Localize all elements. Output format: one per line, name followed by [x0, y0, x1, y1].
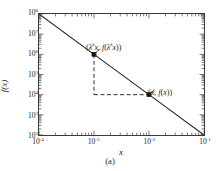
plot-canvas: [39, 14, 204, 135]
data-line: [39, 14, 204, 135]
y-tick-label: 107: [28, 30, 38, 38]
x-tick-label: 10-3: [88, 138, 100, 146]
x-axis-title: x: [119, 147, 123, 157]
annotation-base-point: (x, f(x)): [148, 89, 172, 97]
y-tick-label: 105: [28, 71, 38, 79]
y-tick-label: 104: [28, 91, 38, 99]
y-tick-label: 108: [28, 9, 38, 17]
y-tick-label: 106: [28, 50, 38, 58]
panel-caption: (a): [105, 156, 114, 166]
figure-panel-a: f(x) 108 107 106 105 104 103 102 10-4 10…: [0, 0, 219, 171]
x-tick-label: 10-4: [32, 138, 44, 146]
plot-area: [38, 13, 205, 136]
annotation-leaders: [94, 49, 154, 94]
x-tick-label: 10-1: [199, 138, 211, 146]
x-tick-label: 10-2: [143, 138, 155, 146]
y-axis-title: f(x): [0, 79, 9, 92]
annotation-scaled-point: (λkx, f(λkx)): [86, 44, 121, 52]
y-tick-label: 103: [28, 112, 38, 120]
